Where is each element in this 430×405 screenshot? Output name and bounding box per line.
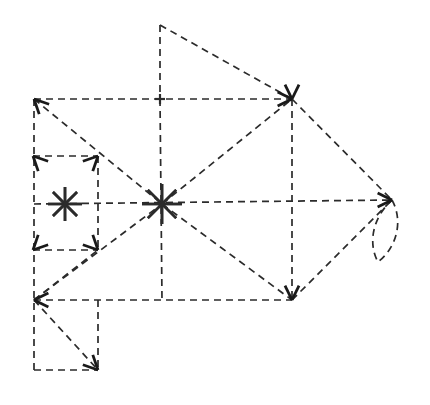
star-node-star-small (48, 187, 82, 221)
diagram-canvas (0, 0, 430, 405)
star-node-star-center (142, 184, 182, 224)
dashed-lattice-figure (0, 0, 430, 405)
